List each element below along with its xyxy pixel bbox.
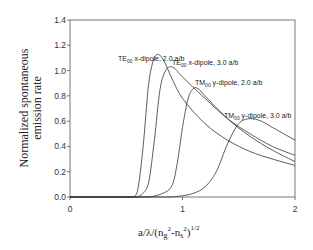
chart: 0.00.20.40.60.81.01.21.4012 TE00 x-dipol… — [0, 0, 313, 250]
label-tm00-y-2.0: TM00 y-dipole, 2.0 a/b — [195, 79, 263, 88]
svg-text:Normalized spontaneous: Normalized spontaneous — [17, 48, 31, 167]
svg-text:emission rate: emission rate — [30, 76, 44, 140]
curves — [70, 54, 295, 197]
y-tick-label: 0.0 — [54, 192, 66, 202]
y-tick-label: 1.0 — [54, 66, 66, 76]
series-line-4 — [70, 119, 295, 197]
plot-frame — [70, 20, 295, 197]
y-tick-label: 1.2 — [54, 40, 66, 50]
x-axis-label: a/λ/(ng2-ns2)1/2 — [138, 224, 200, 240]
y-tick-label: 0.2 — [54, 167, 66, 177]
y-tick-label: 0.8 — [54, 91, 66, 101]
y-tick-label: 1.4 — [54, 15, 66, 25]
x-tick-label: 1 — [180, 204, 185, 214]
x-tick-label: 2 — [293, 204, 298, 214]
series-line-2 — [70, 67, 295, 197]
x-tick-label: 0 — [68, 204, 73, 214]
y-axis-label: Normalized spontaneous emission rate — [17, 48, 44, 167]
series-line-3 — [70, 88, 295, 197]
y-tick-label: 0.6 — [54, 116, 66, 126]
y-tick-label: 0.4 — [54, 141, 66, 151]
